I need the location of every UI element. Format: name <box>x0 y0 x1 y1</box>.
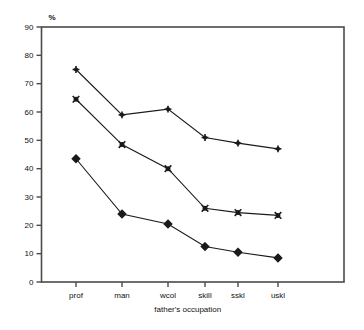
marker-plus <box>204 136 207 139</box>
marker-plus <box>277 148 280 151</box>
y-tick-label: 30 <box>25 193 34 202</box>
marker-cross <box>236 211 239 214</box>
series-plus <box>73 66 282 152</box>
y-tick-label: 90 <box>25 23 34 32</box>
marker-plus <box>237 142 240 145</box>
series-line-diamond <box>76 159 278 258</box>
x-tick-label: uskl <box>271 291 285 300</box>
x-tick-label: man <box>114 291 130 300</box>
y-tick-label: 70 <box>25 79 34 88</box>
y-tick-label: 40 <box>25 164 34 173</box>
y-axis-unit-label: % <box>49 13 56 22</box>
marker-cross <box>166 167 169 170</box>
y-tick-label: 10 <box>25 249 34 258</box>
y-tick-label: 80 <box>25 51 34 60</box>
marker-cross <box>120 143 123 146</box>
y-tick-label: 20 <box>25 221 34 230</box>
chart-canvas: %0102030405060708090profmanwcolskillsskl… <box>0 0 364 330</box>
marker-plus <box>121 114 124 117</box>
x-axis-title: father's occupation <box>154 305 221 314</box>
plot-frame <box>42 27 345 282</box>
marker-diamond <box>234 249 241 256</box>
marker-plus <box>75 68 78 71</box>
marker-plus <box>167 108 170 111</box>
marker-cross <box>203 207 206 210</box>
marker-cross <box>74 98 77 101</box>
y-tick-label: 60 <box>25 108 34 117</box>
series-line-plus <box>76 70 278 149</box>
marker-diamond <box>274 254 281 261</box>
y-tick-label: 0 <box>29 278 34 287</box>
marker-cross <box>276 214 279 217</box>
series-cross <box>73 96 282 219</box>
x-tick-label: sskl <box>231 291 245 300</box>
series-diamond <box>72 155 281 261</box>
marker-diamond <box>201 243 208 250</box>
marker-diamond <box>164 220 171 227</box>
line-chart: %0102030405060708090profmanwcolskillsskl… <box>0 0 364 330</box>
y-tick-label: 50 <box>25 136 34 145</box>
x-tick-label: wcol <box>159 291 176 300</box>
x-tick-label: prof <box>69 291 84 300</box>
x-tick-label: skill <box>198 291 212 300</box>
